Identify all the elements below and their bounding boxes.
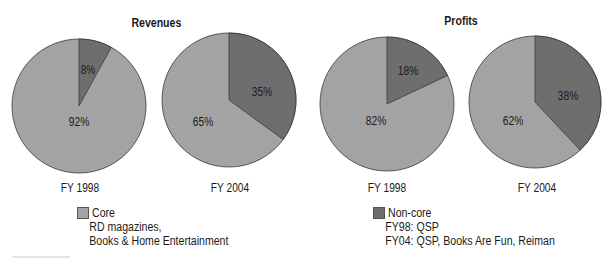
pie-profits-1998-caption: FY 1998 <box>368 181 406 195</box>
pie-revenues-2004-noncore-label: 35% <box>252 85 272 99</box>
legend-core-line-2: Books & Home Entertainment <box>77 234 228 248</box>
pie-revenues-1998-caption: FY 1998 <box>61 181 99 195</box>
pie-profits-2004 <box>469 36 601 168</box>
footer-rule <box>12 256 70 258</box>
pie-revenues-2004-caption: FY 2004 <box>211 181 249 195</box>
pie-profits-1998-noncore-label: 18% <box>398 64 418 78</box>
pie-revenues-1998 <box>12 39 146 173</box>
legend-core-line-1: RD magazines, <box>77 220 228 234</box>
pie-profits-2004-core-label: 62% <box>503 114 523 128</box>
pie-profits-2004-caption: FY 2004 <box>518 181 556 195</box>
pie-profits-1998 <box>320 37 454 171</box>
legend-core: Core RD magazines, Books & Home Entertai… <box>77 206 249 248</box>
pie-profits-2004-noncore-label: 38% <box>558 89 578 103</box>
pie-profits-1998-core-label: 82% <box>366 114 386 128</box>
legend-noncore: Non-core FY98: QSP FY04: QSP, Books Are … <box>373 206 580 248</box>
legend-noncore-line-2: FY04: QSP, Books Are Fun, Reiman <box>373 234 555 248</box>
pie-revenues-2004-core-label: 65% <box>193 115 213 129</box>
core-swatch-icon <box>77 207 89 219</box>
legend-noncore-label: Non-core <box>388 206 431 220</box>
noncore-swatch-icon <box>373 207 385 219</box>
pie-revenues-1998-noncore-label: 8% <box>81 63 96 77</box>
legend-noncore-line-1: FY98: QSP <box>373 220 555 234</box>
pie-revenues-1998-core-label: 92% <box>69 115 89 129</box>
legend-core-label: Core <box>92 206 115 220</box>
pie-revenues-2004 <box>162 33 296 167</box>
